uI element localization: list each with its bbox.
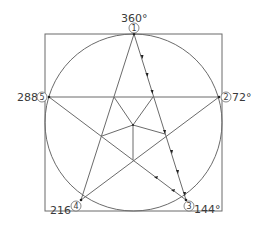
svg-text:5: 5: [39, 93, 44, 102]
svg-text:2: 2: [223, 93, 228, 102]
point-3-label: 3 144°: [184, 201, 221, 216]
circumscribed-circle: [45, 34, 222, 211]
svg-text:1: 1: [131, 24, 136, 33]
point-2-label: 2 72°: [221, 91, 252, 104]
svg-text:72°: 72°: [232, 91, 252, 104]
svg-text:3: 3: [186, 202, 191, 211]
point-4-label: 216° 4: [50, 201, 81, 217]
inner-spokes: [102, 97, 165, 160]
point-5-label: 288° 5: [17, 91, 47, 104]
bounding-square: [45, 34, 222, 211]
pentagram-star: [49, 34, 219, 200]
svg-text:144°: 144°: [194, 203, 221, 216]
point-1-label: 360° 1: [121, 12, 148, 33]
pentagram-diagram: 360° 1 2 72° 3 144° 216° 4 288° 5: [0, 0, 253, 227]
direction-arrows: [141, 55, 187, 196]
svg-text:4: 4: [73, 202, 78, 211]
